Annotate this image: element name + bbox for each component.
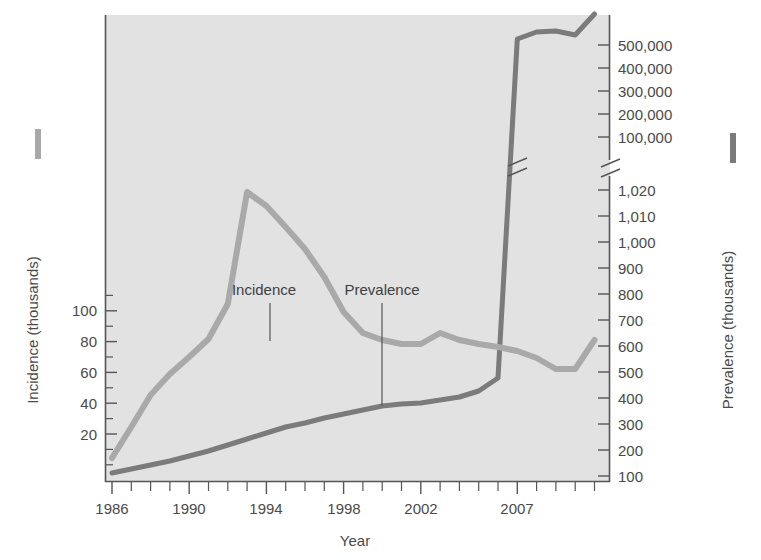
- y-right-tick-label-400: 400: [618, 390, 643, 407]
- y-left-tick-label-80: 80: [80, 333, 97, 350]
- y-right-tick-label-500000: 500,000: [618, 37, 672, 54]
- y-right-axis-title: Prevalence (thousands): [719, 251, 736, 409]
- x-tick-label-2002: 2002: [404, 500, 437, 517]
- prevalence-annotation-label: Prevalence: [344, 281, 419, 298]
- y-right-tick-label-1000: 1,000: [618, 234, 656, 251]
- incidence-annotation-label: Incidence: [232, 281, 296, 298]
- y-left-axis-title: Incidence (thousands): [24, 256, 41, 404]
- y-left-tick-label-20: 20: [80, 426, 97, 443]
- y-right-tick-label-600: 600: [618, 338, 643, 355]
- x-tick-label-1986: 1986: [95, 500, 128, 517]
- y-left-tick-label-100: 100: [72, 302, 97, 319]
- y-right-tick-label-400000: 400,000: [618, 60, 672, 77]
- y-left-tick-label-40: 40: [80, 395, 97, 412]
- chart-figure: 100 80 60 40 20 500,000 400,000 300,000 …: [0, 0, 761, 560]
- y-right-tick-label-1020: 1,020: [618, 182, 656, 199]
- y-right-tick-label-100: 100: [618, 468, 643, 485]
- y-right-tick-label-700: 700: [618, 312, 643, 329]
- x-tick-label-2007: 2007: [500, 500, 533, 517]
- y-right-tick-label-800: 800: [618, 286, 643, 303]
- x-tick-label-1998: 1998: [327, 500, 360, 517]
- y-right-tick-label-300000: 300,000: [618, 83, 672, 100]
- y-right-tick-label-300: 300: [618, 416, 643, 433]
- x-axis-title: Year: [340, 532, 370, 549]
- y-left-tick-label-60: 60: [80, 364, 97, 381]
- y-right-tick-label-500: 500: [618, 364, 643, 381]
- y-right-tick-label-200000: 200,000: [618, 106, 672, 123]
- x-tick-label-1990: 1990: [172, 500, 205, 517]
- y-right-tick-label-900: 900: [618, 260, 643, 277]
- y-right-tick-label-100000: 100,000: [618, 129, 672, 146]
- chart-svg: 100 80 60 40 20 500,000 400,000 300,000 …: [0, 0, 761, 560]
- y-right-tick-label-1010: 1,010: [618, 208, 656, 225]
- x-tick-label-1994: 1994: [249, 500, 282, 517]
- y-right-tick-label-200: 200: [618, 442, 643, 459]
